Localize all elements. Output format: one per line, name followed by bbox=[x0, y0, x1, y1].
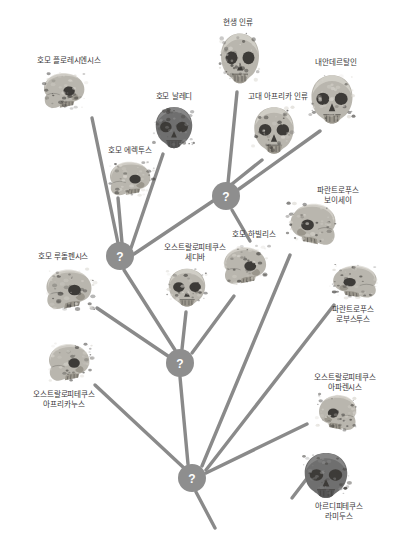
unknown-ancestor-node-middle[interactable]: ? bbox=[166, 349, 194, 377]
unknown-ancestor-node-upper[interactable]: ? bbox=[212, 182, 240, 210]
skull-image-floresiensis[interactable] bbox=[40, 69, 92, 115]
node-question-mark: ? bbox=[222, 190, 229, 204]
hominin-phylogeny-diagram: ???? bbox=[0, 0, 397, 548]
branch-modern-to-node-upper bbox=[228, 92, 237, 183]
skull-image-boisei[interactable] bbox=[282, 199, 340, 253]
skull-image-sediba[interactable] bbox=[163, 266, 211, 310]
branch-sediba-to-node-middle bbox=[182, 312, 186, 349]
skull-image-rudolfensis[interactable] bbox=[42, 265, 100, 317]
skull-image-erectus[interactable] bbox=[106, 158, 158, 202]
branch-archaic-to-node-upper bbox=[232, 160, 262, 184]
branch-erectus-to-node-left bbox=[118, 198, 122, 243]
unknown-ancestor-node-root[interactable]: ? bbox=[178, 464, 206, 492]
branch-root-stem bbox=[196, 492, 215, 528]
skull-image-habilis[interactable] bbox=[220, 243, 274, 291]
branch-africanus-to-node-root bbox=[95, 385, 184, 468]
branch-rudolfensis-to-nodemiddle bbox=[97, 308, 168, 356]
branch-nodemiddle-to-noderoot bbox=[180, 377, 188, 464]
skull-image-neanderthal[interactable] bbox=[305, 72, 359, 128]
skull-image-ramidus[interactable] bbox=[298, 450, 354, 502]
skull-image-naledi[interactable] bbox=[150, 104, 198, 152]
node-question-mark: ? bbox=[188, 472, 195, 486]
skull-image-archaic_african[interactable] bbox=[248, 104, 300, 158]
node-question-mark: ? bbox=[176, 357, 183, 371]
skull-image-africanus[interactable] bbox=[45, 340, 97, 388]
branch-robustus-to-node-root bbox=[206, 305, 334, 470]
skull-image-modern_human[interactable] bbox=[215, 30, 265, 88]
skull-image-robustus[interactable] bbox=[325, 262, 381, 304]
unknown-ancestor-node-left[interactable]: ? bbox=[106, 242, 134, 270]
node-question-mark: ? bbox=[116, 250, 123, 264]
branch-habilis-to-node-upper bbox=[232, 210, 250, 241]
skull-image-afarensis[interactable] bbox=[312, 391, 360, 437]
